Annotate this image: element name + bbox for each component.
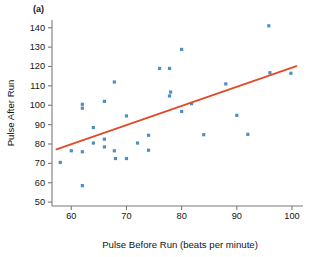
data-point	[125, 157, 128, 160]
data-point	[147, 134, 150, 137]
y-axis-ticks: 5060708090100110120130140	[30, 23, 52, 207]
x-axis-title: Pulse Before Run (beats per minute)	[102, 239, 258, 250]
data-point	[268, 71, 271, 74]
data-point	[246, 133, 249, 136]
data-point	[136, 141, 139, 144]
x-tick-label: 90	[232, 211, 242, 221]
x-tick-label: 80	[177, 211, 187, 221]
data-point	[103, 100, 106, 103]
y-tick-label: 50	[35, 197, 45, 207]
regression-line	[56, 66, 296, 149]
data-point	[289, 72, 292, 75]
x-tick-label: 100	[284, 211, 299, 221]
scatter-plot: 5060708090100110120130140 60708090100 Pu…	[0, 0, 314, 257]
figure-panel: (a) 5060708090100110120130140 6070809010…	[0, 0, 314, 257]
data-point	[224, 82, 227, 85]
data-points-group	[59, 24, 293, 187]
data-point	[113, 80, 116, 83]
y-tick-label: 60	[35, 178, 45, 188]
data-point	[114, 157, 117, 160]
y-axis-title: Pulse After Run	[5, 80, 16, 147]
x-tick-label: 60	[66, 211, 76, 221]
data-point	[235, 114, 238, 117]
data-point	[158, 67, 161, 70]
data-point	[202, 133, 205, 136]
data-point	[113, 149, 116, 152]
y-tick-label: 80	[35, 139, 45, 149]
data-point	[59, 161, 62, 164]
data-point	[81, 184, 84, 187]
data-point	[168, 94, 171, 97]
y-tick-label: 90	[35, 120, 45, 130]
data-point	[180, 48, 183, 51]
data-point	[168, 67, 171, 70]
data-point	[103, 145, 106, 148]
data-point	[70, 149, 73, 152]
data-point	[125, 114, 128, 117]
data-point	[92, 141, 95, 144]
y-tick-label: 110	[30, 81, 45, 91]
data-point	[103, 138, 106, 141]
data-point	[81, 103, 84, 106]
data-point	[180, 110, 183, 113]
data-point	[81, 150, 84, 153]
y-tick-label: 120	[30, 61, 45, 71]
y-tick-label: 100	[30, 100, 45, 110]
data-point	[81, 107, 84, 110]
x-axis-ticks: 60708090100	[66, 206, 299, 221]
y-tick-label: 70	[35, 158, 45, 168]
axes-group	[52, 20, 303, 206]
data-point	[92, 126, 95, 129]
y-tick-label: 130	[30, 42, 45, 52]
x-tick-label: 70	[121, 211, 131, 221]
data-point	[147, 149, 150, 152]
y-tick-label: 140	[30, 23, 45, 33]
data-point	[267, 24, 270, 27]
data-point	[169, 90, 172, 93]
